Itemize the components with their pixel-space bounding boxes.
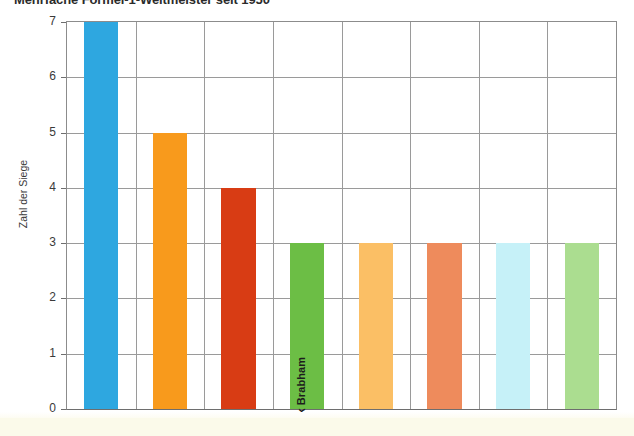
bar-6[interactable]: [427, 243, 461, 409]
y-tick-label-3: 3: [32, 236, 56, 248]
bar-2[interactable]: [153, 133, 187, 409]
bar-series: Jack Brabham: [67, 22, 616, 409]
y-tick-mark-3: [61, 243, 66, 244]
bar-4[interactable]: Jack Brabham: [290, 243, 324, 409]
y-tick-mark-7: [61, 22, 66, 23]
y-tick-label-2: 2: [32, 291, 56, 303]
bottom-band: [0, 418, 634, 436]
chart-container: Mehrfache Formel-1-Weltmeister seit 1950…: [0, 0, 634, 436]
y-tick-mark-0: [61, 409, 66, 410]
bar-3[interactable]: [221, 188, 255, 409]
y-tick-label-7: 7: [32, 15, 56, 27]
plot-area: Jack Brabham: [66, 21, 617, 410]
y-tick-mark-6: [61, 77, 66, 78]
y-tick-mark-1: [61, 354, 66, 355]
bar-8[interactable]: [565, 243, 599, 409]
y-tick-label-1: 1: [32, 347, 56, 359]
y-tick-label-6: 6: [32, 70, 56, 82]
bar-7[interactable]: [496, 243, 530, 409]
y-tick-label-4: 4: [32, 181, 56, 193]
bar-1[interactable]: [84, 22, 118, 409]
bar-5[interactable]: [359, 243, 393, 409]
y-axis-title: Zahl der Siege: [17, 134, 29, 254]
y-tick-mark-5: [61, 133, 66, 134]
y-tick-label-5: 5: [32, 126, 56, 138]
y-tick-mark-2: [61, 298, 66, 299]
chart-title: Mehrfache Formel-1-Weltmeister seit 1950: [14, 0, 270, 7]
y-tick-mark-4: [61, 188, 66, 189]
